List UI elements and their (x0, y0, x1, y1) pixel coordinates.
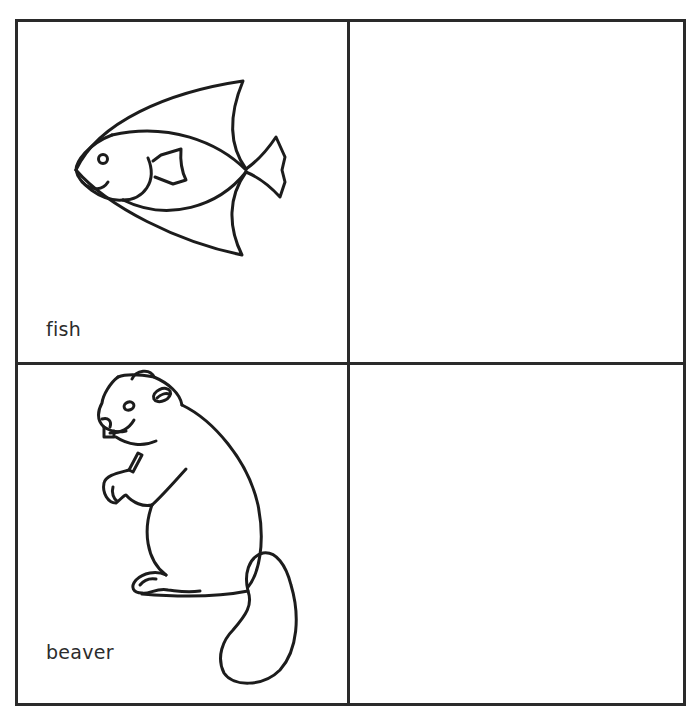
cell-blank-top-right (350, 22, 683, 362)
cell-fish: fish (18, 22, 347, 362)
fish-icon (18, 22, 347, 362)
cell-label-beaver: beaver (46, 641, 114, 663)
cell-label-fish: fish (46, 318, 81, 340)
cell-beaver: beaver (18, 365, 347, 703)
cell-blank-bottom-right (350, 365, 683, 703)
